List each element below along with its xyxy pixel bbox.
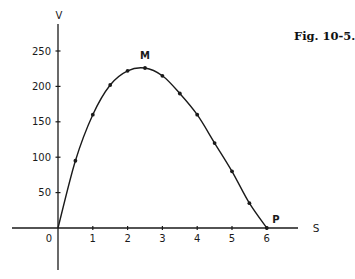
y-tick-label: 200: [32, 81, 51, 92]
y-tick-label: 250: [32, 46, 51, 57]
y-axis-label: V: [56, 10, 63, 21]
y-tick-label: 50: [38, 187, 51, 198]
data-point: [108, 83, 112, 87]
x-tick-label: 3: [159, 233, 165, 244]
x-tick-label: 2: [124, 233, 130, 244]
data-point: [213, 141, 217, 145]
annotation-p: P: [272, 214, 279, 225]
x-tick-label: 1: [90, 233, 96, 244]
data-point: [248, 201, 252, 205]
data-point: [126, 69, 130, 73]
figure-caption: Fig. 10-5.: [294, 29, 355, 43]
data-point: [161, 74, 165, 78]
axis-ticks: [56, 51, 267, 230]
y-tick-label: 100: [32, 152, 51, 163]
series-line: [58, 68, 267, 228]
x-tick-label: 5: [229, 233, 235, 244]
data-point: [265, 226, 269, 230]
origin-label: 0: [46, 233, 52, 244]
data-point: [178, 92, 182, 96]
data-point: [91, 113, 95, 117]
x-tick-label: 4: [194, 233, 200, 244]
data-point: [143, 66, 147, 70]
y-tick-label: 150: [32, 116, 51, 127]
data-point: [230, 169, 234, 173]
x-tick-label: 6: [264, 233, 270, 244]
x-axis-label: S: [313, 222, 320, 234]
data-point: [74, 159, 78, 163]
axes: [12, 24, 298, 270]
annotation-m: M: [140, 50, 150, 61]
data-point: [195, 113, 199, 117]
axis-labels: 123456501001502002500VSMP: [32, 10, 320, 244]
data-series: [58, 66, 269, 230]
